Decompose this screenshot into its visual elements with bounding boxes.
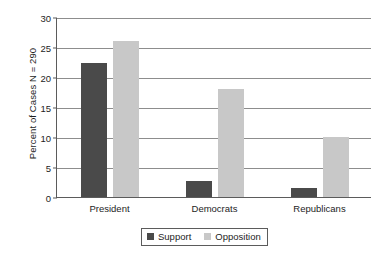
y-tick-label: 0	[46, 193, 57, 204]
bar-president-support	[81, 63, 107, 197]
legend-swatch-opposition-icon	[204, 233, 211, 240]
plot-area: 051015202530 PresidentDemocratsRepublica…	[56, 18, 371, 198]
bar-republicans-opposition	[323, 137, 349, 197]
y-tick-label: 30	[40, 13, 57, 24]
bar-president-opposition	[113, 41, 139, 197]
x-axis-label-president: President	[89, 203, 129, 214]
y-tick-label: 25	[40, 43, 57, 54]
bar-democrats-support	[186, 181, 212, 197]
gridline	[57, 48, 371, 49]
x-axis-label-democrats: Democrats	[192, 203, 238, 214]
bar-republicans-support	[291, 188, 317, 197]
legend-swatch-support-icon	[147, 233, 154, 240]
legend-label-opposition: Opposition	[215, 231, 260, 242]
y-tick-label: 20	[40, 73, 57, 84]
x-axis-label-republicans: Republicans	[293, 203, 345, 214]
legend-item-support: Support	[147, 231, 191, 242]
bar-chart: Percent of Cases N = 290 051015202530 Pr…	[0, 0, 388, 256]
bar-democrats-opposition	[218, 89, 244, 197]
y-tick-label: 15	[40, 103, 57, 114]
y-tick-label: 10	[40, 133, 57, 144]
y-tick-label: 5	[46, 163, 57, 174]
gridline	[57, 18, 371, 19]
legend-label-support: Support	[158, 231, 191, 242]
legend-item-opposition: Opposition	[204, 231, 260, 242]
y-axis-title: Percent of Cases N = 290	[27, 19, 38, 189]
chart-legend: Support Opposition	[141, 228, 268, 246]
